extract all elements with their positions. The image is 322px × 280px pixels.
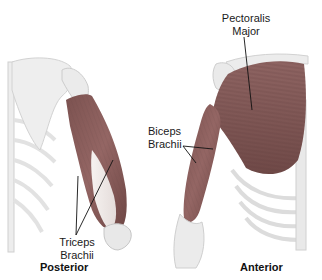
triceps-brachii-label: Triceps Brachii xyxy=(54,236,100,262)
muscle-anatomy-figure: Triceps Brachii Posterior Pectoralis Maj… xyxy=(0,0,322,280)
pectoralis-major-label: Pectoralis Major xyxy=(214,12,278,38)
anterior-view-label: Anterior xyxy=(240,261,283,273)
posterior-view-art xyxy=(8,58,131,252)
pectoralis-label-line2: Major xyxy=(214,25,278,38)
biceps-label-line1: Biceps xyxy=(148,125,184,138)
biceps-brachii-label: Biceps Brachii xyxy=(148,125,184,151)
anterior-view-art xyxy=(174,37,308,268)
triceps-label-line1: Triceps xyxy=(54,236,100,249)
pectoralis-label-line1: Pectoralis xyxy=(214,12,278,25)
elbow xyxy=(104,224,131,250)
posterior-view-label: Posterior xyxy=(40,261,88,273)
anterior-ribcage xyxy=(232,170,300,240)
forearm-bones xyxy=(174,214,204,268)
biceps-label-line2: Brachii xyxy=(148,138,184,151)
